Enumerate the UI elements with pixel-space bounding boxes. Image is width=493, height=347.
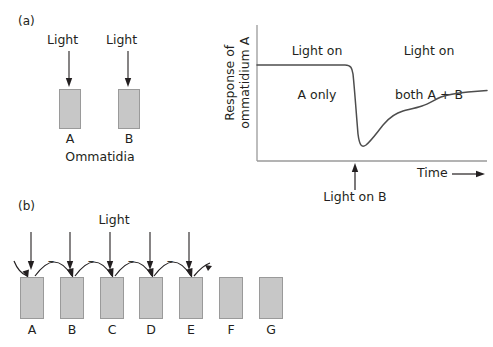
panel-b-label-c: C [100,323,124,338]
inhibition-arrowhead [205,265,212,271]
panel-b-label-b: B [60,323,84,338]
panel-b-label-a: A [20,323,44,338]
panel-b-ommatidium-b [60,277,84,319]
panel-b-label-g: G [259,323,283,338]
panel-b-ommatidium-g [259,277,283,319]
inhibition-sign-3: – [124,253,138,268]
figure-lateral-inhibition: (a) Light Light A B Ommatidia Response o… [0,0,493,347]
panel-b-ommatidium-d [139,277,163,319]
panel-b-ommatidium-e [179,277,203,319]
inhibition-sign-4: – [163,253,177,268]
panel-b-ommatidium-a [20,277,44,319]
panel-b-ommatidium-c [100,277,124,319]
down-arrow-icon [28,261,34,270]
panel-b-label-d: D [139,323,163,338]
panel-b-label-e: E [179,323,203,338]
panel-b-ommatidium-f [219,277,243,319]
inhibition-sign-1: – [44,253,58,268]
inhibition-sign-2: – [84,253,98,268]
panel-b-label-f: F [219,323,243,338]
